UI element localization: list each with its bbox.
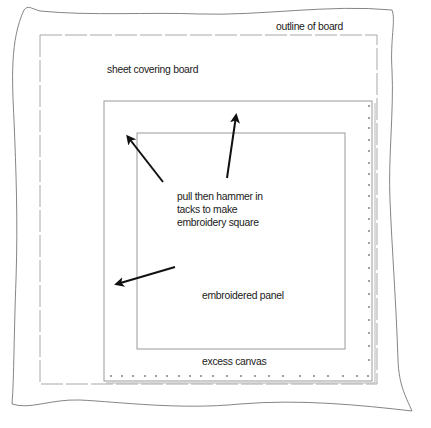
label-sheet-covering-board: sheet covering board — [107, 63, 198, 76]
tacks-bottom-edge — [110, 375, 369, 377]
arrow-left — [117, 267, 175, 284]
tacks-right-edge — [368, 105, 370, 361]
label-instruction: pull then hammer in tacks to make embroi… — [177, 190, 263, 229]
arrow-up — [227, 116, 236, 178]
label-outline-of-board: outline of board — [276, 20, 343, 33]
arrow-up-left — [128, 137, 163, 182]
embroidered-panel-outline — [137, 133, 345, 349]
instruction-line-1: pull then hammer in — [177, 190, 263, 203]
label-excess-canvas: excess canvas — [202, 355, 266, 368]
instruction-line-3: embroidery square — [177, 216, 263, 229]
label-embroidered-panel: embroidered panel — [202, 289, 284, 302]
instruction-line-2: tacks to make — [177, 203, 263, 216]
excess-canvas-outline — [104, 101, 372, 381]
